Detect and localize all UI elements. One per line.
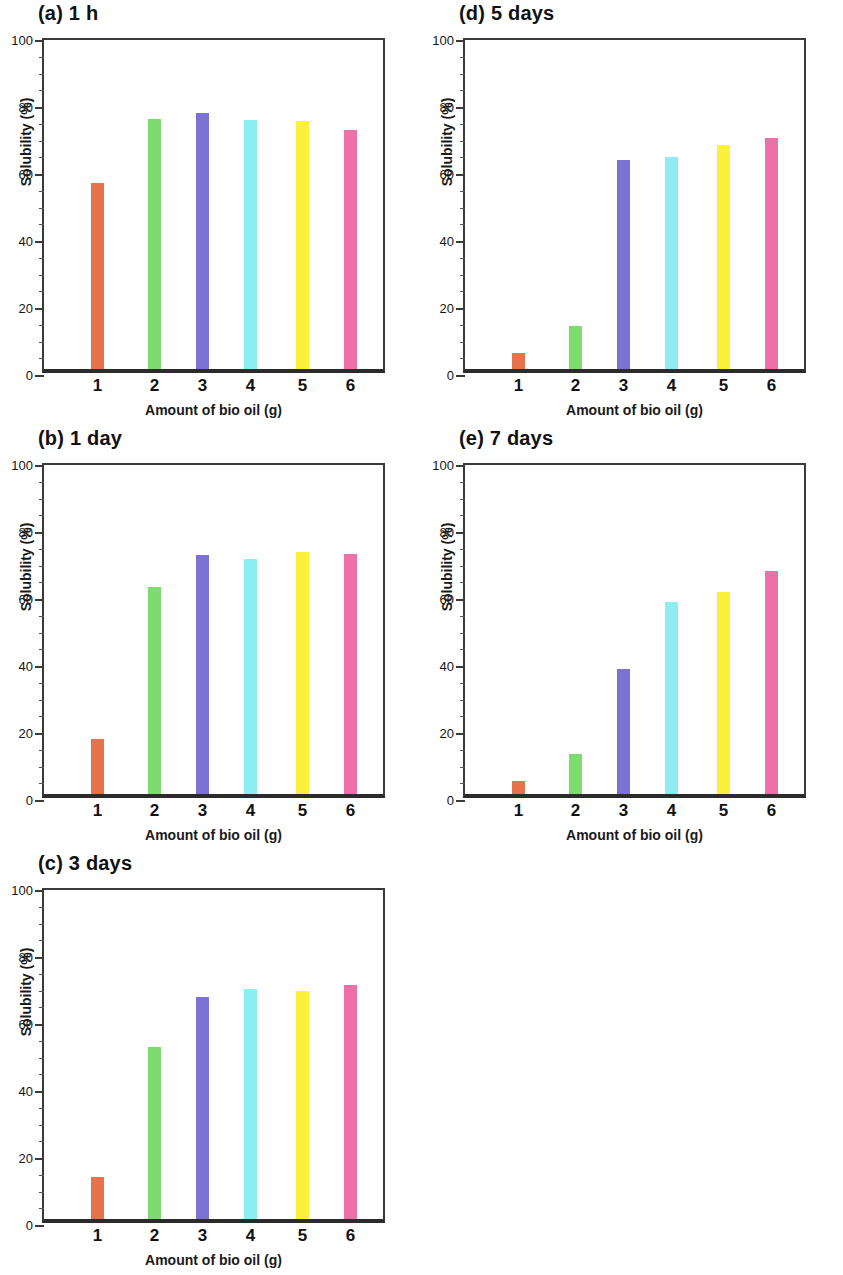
panel-title-a: (a) 1 h [38,2,98,25]
plot-area-d: Solubility (%)020406080100123456Amount o… [421,30,842,425]
plot-box-e: 020406080100123456 [463,463,806,798]
x-tick-label: 3 [619,801,628,821]
y-tick-label: 60 [19,592,33,607]
y-tick-label: 40 [19,1084,33,1099]
y-axis-label-d: Solubility (%) [439,72,455,212]
bar-e-2 [569,754,582,794]
bar-c-1 [91,1177,104,1219]
x-tick-label: 1 [93,801,102,821]
panel-title-d: (d) 5 days [459,2,554,25]
y-tick-major [456,107,465,109]
y-tick-major [35,375,44,377]
x-tick-label: 5 [298,1226,307,1246]
plot-box-a: 020406080100123456 [42,38,385,373]
y-tick-major [456,241,465,243]
y-tick-major [35,1091,44,1093]
x-tick-label: 3 [198,801,207,821]
y-tick-major [35,890,44,892]
bar-a-5 [296,121,309,369]
y-tick-major [456,465,465,467]
y-tick-label: 20 [440,726,454,741]
chart-panel-e: (e) 7 daysSolubility (%)0204060801001234… [421,425,842,850]
x-tick-label: 1 [514,801,523,821]
y-tick-major [35,1024,44,1026]
panel-title-e: (e) 7 days [459,427,553,450]
bar-c-3 [196,997,209,1219]
plot-area-b: Solubility (%)020406080100123456Amount o… [0,455,421,850]
y-tick-major [456,532,465,534]
bar-b-4 [244,559,257,794]
y-tick-major [456,599,465,601]
bar-e-3 [617,669,630,794]
y-tick-label: 0 [26,793,33,808]
y-tick-label: 80 [440,525,454,540]
y-tick-label: 80 [440,100,454,115]
x-tick-label: 5 [719,376,728,396]
y-tick-label: 60 [440,167,454,182]
bar-d-5 [717,145,730,369]
x-axis-label-d: Amount of bio oil (g) [463,402,806,418]
y-tick-major [456,174,465,176]
y-tick-major [456,800,465,802]
x-tick-label: 6 [767,376,776,396]
y-tick-label: 100 [432,33,454,48]
bar-e-6 [765,571,778,794]
bar-d-6 [765,138,778,369]
bar-d-2 [569,326,582,369]
y-tick-label: 60 [440,592,454,607]
bar-a-3 [196,113,209,369]
y-axis-label-e: Solubility (%) [439,497,455,637]
y-tick-label: 0 [447,368,454,383]
y-tick-major [35,800,44,802]
y-tick-label: 40 [19,659,33,674]
bar-a-6 [344,130,357,369]
y-tick-major [35,241,44,243]
y-tick-major [35,1225,44,1227]
y-tick-major [35,465,44,467]
chart-panel-a: (a) 1 hSolubility (%)020406080100123456A… [0,0,421,425]
bar-series-e [465,465,804,794]
bar-b-3 [196,555,209,794]
x-tick-label: 1 [93,1226,102,1246]
y-tick-major [35,532,44,534]
x-tick-label: 4 [667,801,676,821]
x-tick-label: 2 [150,801,159,821]
bar-e-5 [717,592,730,794]
bar-b-6 [344,554,357,794]
plot-area-a: Solubility (%)020406080100123456Amount o… [0,30,421,425]
bar-a-2 [148,119,161,369]
bar-b-5 [296,552,309,794]
y-axis-label-c: Solubility (%) [18,922,34,1062]
bar-c-4 [244,989,257,1219]
bar-c-5 [296,991,309,1219]
x-tick-label: 2 [150,1226,159,1246]
y-tick-major [456,308,465,310]
x-tick-label: 2 [571,801,580,821]
chart-panel-c: (c) 3 daysSolubility (%)0204060801001234… [0,850,421,1275]
plot-area-c: Solubility (%)020406080100123456Amount o… [0,880,421,1275]
bar-a-1 [91,183,104,369]
y-axis-label-a: Solubility (%) [18,72,34,212]
plot-area-e: Solubility (%)020406080100123456Amount o… [421,455,842,850]
x-tick-label: 5 [719,801,728,821]
bar-c-6 [344,985,357,1219]
bar-e-1 [512,781,525,794]
x-tick-label: 6 [346,1226,355,1246]
x-tick-label: 3 [198,1226,207,1246]
x-tick-label: 6 [767,801,776,821]
y-tick-label: 20 [19,1151,33,1166]
chart-panel-b: (b) 1 daySolubility (%)02040608010012345… [0,425,421,850]
y-tick-major [456,40,465,42]
bar-c-2 [148,1047,161,1219]
y-tick-label: 0 [447,793,454,808]
y-tick-label: 0 [26,368,33,383]
chart-panel-d: (d) 5 daysSolubility (%)0204060801001234… [421,0,842,425]
x-tick-label: 6 [346,376,355,396]
x-tick-label: 2 [150,376,159,396]
y-tick-label: 80 [19,950,33,965]
x-tick-label: 4 [246,376,255,396]
x-axis-label-b: Amount of bio oil (g) [42,827,385,843]
y-tick-label: 20 [440,301,454,316]
figure-panel-grid: (a) 1 hSolubility (%)020406080100123456A… [0,0,843,1275]
panel-title-b: (b) 1 day [38,427,122,450]
